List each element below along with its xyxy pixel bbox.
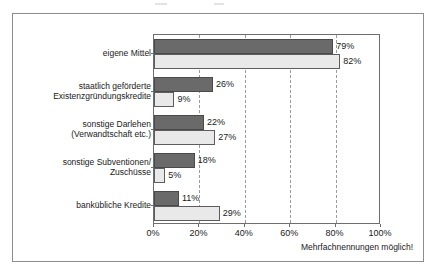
bar-2004-3 (154, 153, 195, 168)
scan-artifact (155, 3, 167, 5)
x-tick-label-80: 80% (326, 228, 344, 238)
x-tick-label-0: 0% (146, 228, 159, 238)
category-label-line: Zuschüsse (63, 167, 151, 178)
category-label-line: sonstige Subventionen/ (63, 157, 151, 168)
bar-value-1997-4: 29% (220, 206, 241, 221)
x-tick-mark-60 (289, 224, 290, 227)
bar-value-2004-3: 18% (195, 153, 216, 168)
category-label-3: sonstige Subventionen/Zuschüsse (63, 157, 151, 178)
bar-1997-2 (154, 130, 215, 145)
scan-artifact (214, 3, 224, 5)
bar-1997-1 (154, 92, 174, 107)
bar-value-1997-2: 27% (215, 130, 236, 145)
category-axis-labels: eigene Mittelstaatlich geförderteExisten… (13, 34, 151, 224)
bar-value-2004-4: 11% (179, 191, 199, 206)
category-label-line: bankübliche Kredite (76, 200, 151, 211)
bar-2004-0 (154, 39, 333, 54)
bar-value-1997-0: 82% (340, 54, 361, 69)
bar-value-2004-0: 79% (333, 39, 354, 54)
x-tick-label-60: 60% (280, 228, 298, 238)
category-label-0: eigene Mittel (103, 48, 151, 59)
category-label-line: eigene Mittel (103, 48, 151, 59)
chart-footnote: Mehrfachnennungen möglich! (253, 242, 413, 252)
x-tick-mark-80 (335, 224, 336, 227)
x-tick-label-20: 20% (189, 228, 207, 238)
category-label-1: staatlich geförderteExistenzgründungskre… (53, 81, 151, 102)
category-label-line: sonstige Darlehen (71, 119, 151, 130)
bar-value-1997-3: 5% (165, 168, 181, 183)
x-axis: 0%20%40%60%80%100% (153, 224, 380, 240)
x-tick-label-40: 40% (235, 228, 253, 238)
category-label-2: sonstige Darlehen(Verwandtschaft etc.) (71, 119, 151, 140)
category-label-line: staatlich geförderte (53, 81, 151, 92)
bar-1997-4 (154, 206, 220, 221)
plot-area: 79%82%26%9%22%27%18%5%11%29% 2004 1997 (153, 34, 380, 224)
bar-value-2004-1: 26% (213, 77, 234, 92)
bar-1997-3 (154, 168, 165, 183)
x-tick-mark-40 (244, 224, 245, 227)
category-label-line: Existenzgründungskredite (53, 91, 151, 102)
bar-2004-1 (154, 77, 213, 92)
figure-frame: eigene Mittelstaatlich geförderteExisten… (12, 13, 424, 262)
bar-1997-0 (154, 54, 340, 69)
bar-value-2004-2: 22% (204, 115, 225, 130)
category-label-4: bankübliche Kredite (76, 200, 151, 211)
bar-value-1997-1: 9% (174, 92, 190, 107)
x-tick-mark-100 (380, 224, 381, 227)
category-label-line: (Verwandtschaft etc.) (71, 129, 151, 140)
bar-2004-2 (154, 115, 204, 130)
bar-2004-4 (154, 191, 179, 206)
x-tick-label-100: 100% (368, 228, 391, 238)
x-tick-mark-0 (153, 224, 154, 227)
x-tick-mark-20 (198, 224, 199, 227)
